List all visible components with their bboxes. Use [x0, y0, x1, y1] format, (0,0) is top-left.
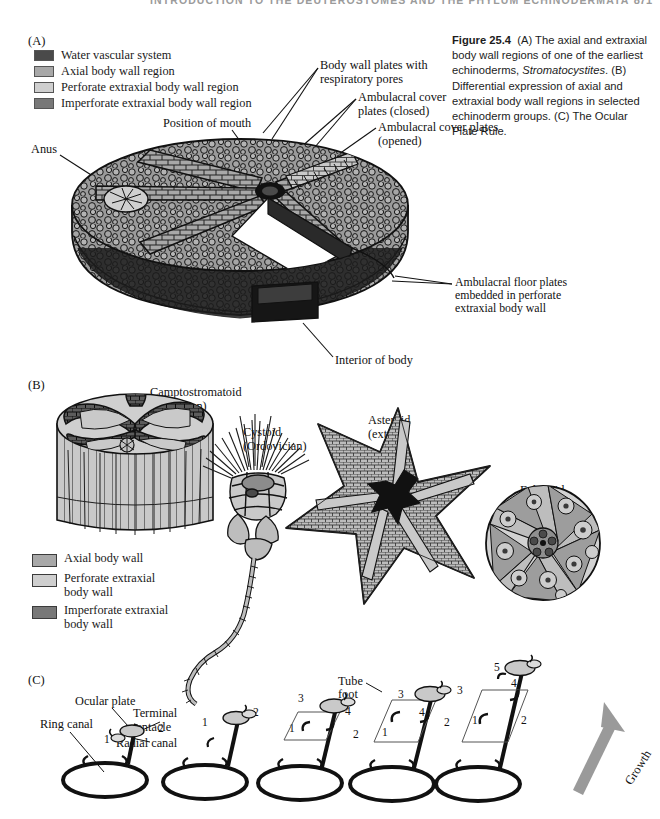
- label-ambulacral-cover-plates-closed: Ambulacral cover plates (closed): [358, 90, 446, 118]
- running-head: INTRODUCTION TO THE DEUTEROSTOMES AND TH…: [0, 0, 660, 14]
- caption-genus: Stromatocystites: [522, 64, 605, 76]
- label-interior-of-body: Interior of body: [335, 353, 413, 367]
- legend-swatch-axial-b: [32, 554, 57, 567]
- label-tube-foot: Tube foot: [338, 675, 363, 701]
- panel-c-letter: (C): [28, 673, 45, 688]
- label-ocular-plate: Ocular plate: [75, 694, 135, 708]
- specimen-period: (extant): [368, 427, 410, 441]
- panel-b-letter: (B): [28, 378, 45, 393]
- legend-swatch-perforate-b: [32, 574, 57, 587]
- ocular-plate-stage-5: [436, 655, 541, 801]
- legend-swatch-water-vascular: [34, 50, 54, 61]
- label-growth: Growth: [622, 748, 655, 788]
- panel-b-legend: Axial body wall Perforate extraxial body…: [32, 552, 202, 636]
- legend-item: Axial body wall: [32, 552, 202, 567]
- ocular-plate-stage-3: [258, 693, 355, 800]
- label-anus: Anus: [31, 142, 57, 156]
- legend-swatch-imperforate-b: [32, 606, 57, 619]
- specimen-period: (Cambrian): [150, 399, 242, 413]
- stage-number: 2: [521, 714, 527, 726]
- legend-swatch-axial: [34, 66, 54, 77]
- stage-number: 3: [398, 688, 404, 700]
- specimen-name: Cystoid: [243, 425, 307, 439]
- legend-swatch-imperforate: [34, 98, 54, 109]
- caption-figure-number: Figure 25.4: [452, 34, 511, 46]
- panel-a-legend: Water vascular system Axial body wall re…: [34, 48, 324, 112]
- legend-item: Imperforate extraxial body wall region: [34, 96, 324, 110]
- label-position-of-mouth: Position of mouth: [163, 116, 251, 130]
- specimen-name: Asteroid: [368, 413, 410, 427]
- stage-number: 2: [353, 728, 359, 740]
- label-ambulacral-cover-plates-opened: Ambulacral cover plates (opened): [378, 120, 498, 148]
- stage-number: 1: [104, 733, 110, 745]
- stage-number: 1: [202, 716, 208, 728]
- specimen-name: Echinoid: [520, 483, 564, 497]
- stage-number: 1: [382, 726, 388, 738]
- specimen-period: (extant): [520, 497, 564, 511]
- specimen-label-asteroid: Asteroid (extant): [368, 413, 410, 441]
- stage-number: 5: [494, 661, 500, 673]
- legend-item: Axial body wall region: [34, 64, 324, 78]
- legend-label-axial-b: Axial body wall: [64, 552, 143, 566]
- legend-label-perforate: Perforate extraxial body wall region: [61, 80, 239, 94]
- label-radial-canal: Radial canal: [116, 736, 177, 750]
- stage-number: 1: [289, 722, 295, 734]
- legend-label-imperforate: Imperforate extraxial body wall region: [61, 96, 252, 110]
- legend-swatch-perforate: [34, 82, 54, 93]
- stage-number: 4: [511, 677, 517, 689]
- legend-item: Perforate extraxial body wall: [32, 572, 202, 599]
- legend-item: Water vascular system: [34, 48, 324, 62]
- stage-number: 3: [457, 684, 463, 696]
- legend-label-axial: Axial body wall region: [61, 64, 175, 78]
- specimen-name: Camptostromatoid: [150, 385, 242, 399]
- specimen-period-cystoid: (Ordovician): [243, 439, 307, 453]
- growth-arrow: [573, 702, 625, 795]
- stage-number: 2: [158, 722, 164, 734]
- label-body-wall-plates: Body wall plates with respiratory pores: [320, 58, 428, 86]
- stage-number: 4: [345, 705, 351, 717]
- stage-number: 2: [253, 706, 259, 718]
- specimen-label-cystoid: Cystoid (extant) (Ordovician): [243, 425, 307, 453]
- specimen-label-echinoid: Echinoid (extant): [520, 483, 564, 511]
- legend-item: Imperforate extraxial body wall: [32, 604, 202, 631]
- label-ambulacral-floor-plates: Ambulacral floor plates embedded in perf…: [455, 276, 567, 316]
- running-head-page-number: 871: [634, 0, 652, 6]
- stage-number: 3: [298, 692, 304, 704]
- legend-label-water-vascular: Water vascular system: [61, 48, 171, 62]
- legend-label-imperforate-b: Imperforate extraxial body wall: [64, 604, 168, 631]
- figure-page: INTRODUCTION TO THE DEUTEROSTOMES AND TH…: [0, 0, 660, 819]
- label-terminal-tentacle: Terminal tentacle: [133, 706, 177, 734]
- stage-number: 4: [419, 706, 425, 718]
- stromatocystites-illustration: [72, 139, 408, 322]
- stage-number: 2: [444, 716, 450, 728]
- panel-a-letter: (A): [28, 34, 45, 49]
- label-ring-canal: Ring canal: [40, 717, 93, 731]
- legend-item: Perforate extraxial body wall region: [34, 80, 324, 94]
- legend-label-perforate-b: Perforate extraxial body wall: [64, 572, 155, 599]
- running-head-text: INTRODUCTION TO THE DEUTEROSTOMES AND TH…: [150, 0, 629, 6]
- stage-number: 1: [472, 714, 478, 726]
- specimen-label-camptostromatoid: Camptostromatoid (Cambrian): [150, 385, 242, 413]
